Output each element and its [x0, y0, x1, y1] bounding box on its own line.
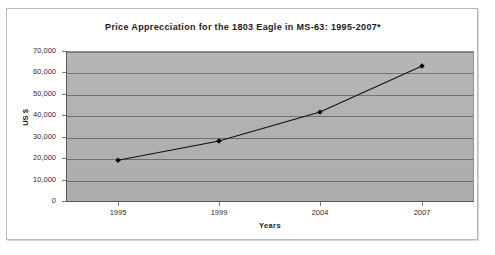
data-point-1995	[115, 158, 120, 163]
data-point-2004	[317, 109, 322, 114]
series-markers-price	[115, 63, 424, 163]
data-point-2007	[419, 63, 424, 68]
data-point-1999	[216, 138, 221, 143]
series-line-price	[118, 66, 422, 160]
series-line-chart	[7, 9, 479, 241]
chart-frame: Price Apprecciation for the 1803 Eagle i…	[6, 8, 478, 240]
